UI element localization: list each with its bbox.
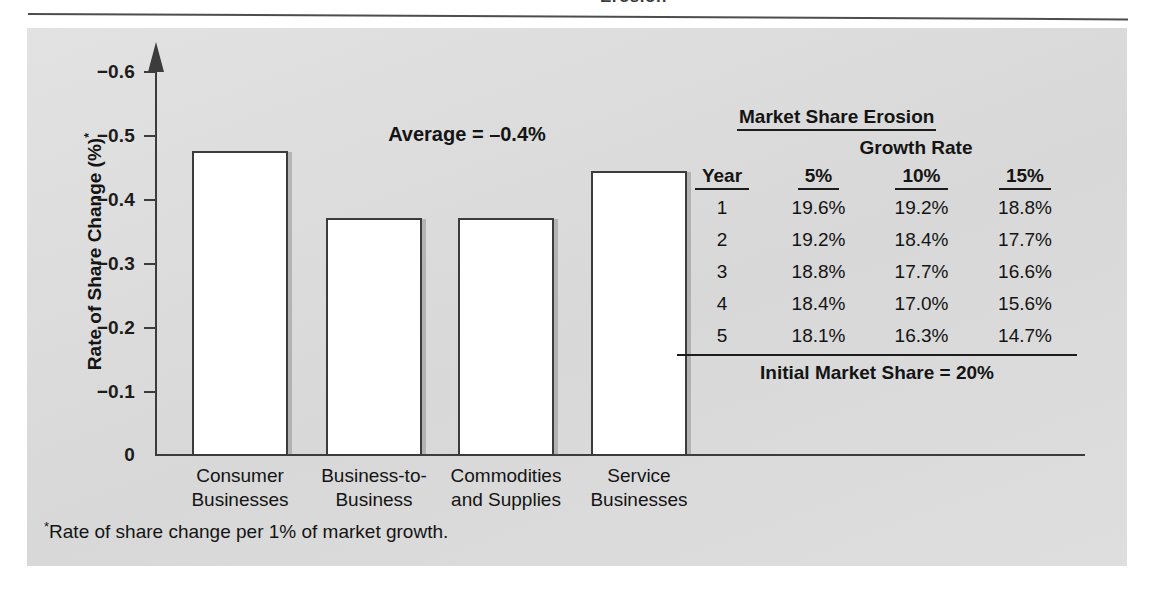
cell-g5: 18.1% — [767, 320, 870, 352]
bar-business-to-business — [326, 218, 422, 456]
cell-g5: 19.6% — [767, 192, 870, 224]
table-footer-initial-market-share: Initial Market Share = 20% — [677, 354, 1077, 384]
y-tick-label-0: −0.6 — [65, 61, 135, 83]
cell-year: 3 — [677, 256, 767, 288]
y-tick-label-2: −0.4 — [65, 189, 135, 211]
cell-year: 5 — [677, 320, 767, 352]
y-axis-arrow-icon — [148, 42, 164, 72]
table-row: 2 19.2% 18.4% 17.7% — [677, 224, 1077, 256]
table-row: 3 18.8% 17.7% 16.6% — [677, 256, 1077, 288]
y-tick-4 — [144, 327, 156, 329]
cell-g15: 17.7% — [973, 224, 1077, 256]
y-tick-1 — [144, 135, 156, 137]
cell-g10: 17.7% — [870, 256, 973, 288]
y-tick-5 — [144, 391, 156, 393]
cell-year: 1 — [677, 192, 767, 224]
y-tick-3 — [144, 263, 156, 265]
col-header-10-text: 10% — [895, 165, 947, 190]
table-row: 5 18.1% 16.3% 14.7% — [677, 320, 1077, 352]
cell-year: 4 — [677, 288, 767, 320]
x-label-business-to-business: Business-to- Business — [311, 464, 437, 512]
cell-year: 2 — [677, 224, 767, 256]
bar-service-businesses — [591, 171, 687, 456]
x-label-service-businesses: Service Businesses — [579, 464, 699, 512]
col-header-10: 10% — [870, 164, 973, 192]
y-tick-label-1: −0.5 — [65, 125, 135, 147]
bar-consumer-businesses — [192, 151, 288, 456]
footnote: *Rate of share change per 1% of market g… — [44, 519, 448, 543]
clipped-heading-text: Erosion — [600, 0, 667, 7]
col-header-15-text: 15% — [999, 165, 1051, 190]
col-header-year-text: Year — [695, 165, 749, 190]
table-row: 4 18.4% 17.0% 15.6% — [677, 288, 1077, 320]
x-label-consumer-businesses: Consumer Businesses — [180, 464, 300, 512]
table-title-wrap: Market Share Erosion — [677, 106, 1097, 131]
table-title: Market Share Erosion — [737, 106, 936, 131]
cell-g5: 18.4% — [767, 288, 870, 320]
y-tick-label-6: 0 — [65, 444, 135, 466]
cell-g10: 19.2% — [870, 192, 973, 224]
cell-g10: 17.0% — [870, 288, 973, 320]
x-label-commodities-and-supplies: Commodities and Supplies — [440, 464, 572, 512]
cell-g5: 18.8% — [767, 256, 870, 288]
cell-g5: 19.2% — [767, 224, 870, 256]
table-header-row: Year 5% 10% 15% — [677, 164, 1077, 192]
market-share-erosion-table: Market Share Erosion Growth Rate Year 5%… — [677, 106, 1097, 384]
table-subtitle-growth-rate: Growth Rate — [677, 137, 1097, 159]
cell-g15: 15.6% — [973, 288, 1077, 320]
average-annotation: Average = –0.4% — [327, 123, 607, 146]
cell-g15: 18.8% — [973, 192, 1077, 224]
y-tick-2 — [144, 199, 156, 201]
y-tick-label-5: −0.1 — [65, 381, 135, 403]
col-header-15: 15% — [973, 164, 1077, 192]
col-header-year: Year — [677, 164, 767, 192]
cell-g10: 16.3% — [870, 320, 973, 352]
col-header-5: 5% — [767, 164, 870, 192]
figure-panel: Rate of Share Change (%)* −0.6 −0.5 −0.4… — [27, 28, 1127, 566]
table-row: 1 19.6% 19.2% 18.8% — [677, 192, 1077, 224]
y-tick-label-4: −0.2 — [65, 317, 135, 339]
cell-g10: 18.4% — [870, 224, 973, 256]
erosion-data-table: Year 5% 10% 15% 1 19.6% 19.2% 18.8% 2 19… — [677, 164, 1077, 352]
cell-g15: 16.6% — [973, 256, 1077, 288]
bar-commodities-and-supplies — [458, 218, 554, 456]
cell-g15: 14.7% — [973, 320, 1077, 352]
y-tick-label-3: −0.3 — [65, 253, 135, 275]
col-header-5-text: 5% — [798, 165, 839, 190]
footnote-text: Rate of share change per 1% of market gr… — [49, 521, 448, 542]
y-tick-0 — [144, 71, 156, 73]
